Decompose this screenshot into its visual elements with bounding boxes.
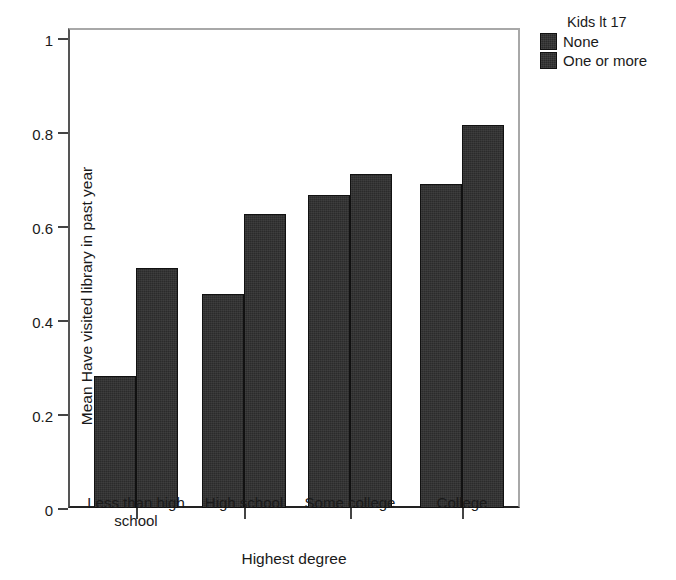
x-axis-label-high-school: High school (184, 494, 304, 512)
y-axis-tick-label-0.2: 0.2 (32, 408, 53, 425)
bar-some-college-one-or-more[interactable] (350, 174, 392, 508)
bars-layer (68, 28, 520, 508)
legend-label-none: None (563, 33, 599, 50)
bar-high-school-none[interactable] (202, 294, 244, 508)
y-axis-tick-0.2: 0.2 (58, 414, 68, 416)
y-axis-tick-0.6: 0.6 (58, 226, 68, 228)
y-axis-tick-0.4: 0.4 (58, 320, 68, 322)
legend-label-one-or-more: One or more (563, 52, 647, 69)
y-axis-tick-label-0.8: 0.8 (32, 126, 53, 143)
bar-high-school-one-or-more[interactable] (244, 214, 286, 508)
legend-swatch-none (540, 33, 557, 50)
bar-college-one-or-more[interactable] (462, 125, 504, 508)
y-axis-tick-1: 1 (58, 38, 68, 40)
y-axis-tick-label-1: 1 (45, 32, 53, 49)
y-axis-title: Mean Have visited library in past year (74, 56, 100, 536)
x-axis-label-some-college: Some college (288, 494, 412, 512)
bar-less-than-high-school-none[interactable] (94, 376, 136, 508)
y-axis-tick-label-0: 0 (45, 502, 53, 519)
x-axis-title: Highest degree (68, 550, 520, 568)
bar-some-college-none[interactable] (308, 195, 350, 508)
legend: Kids lt 17 None One or more (540, 14, 670, 71)
legend-item-none[interactable]: None (540, 33, 670, 50)
bar-college-none[interactable] (420, 184, 462, 508)
chart-plot-area: 1 0.8 0.6 0.4 0.2 0 Mean Have visited li… (68, 28, 520, 508)
x-axis-label-college: College (404, 494, 520, 512)
legend-item-one-or-more[interactable]: One or more (540, 52, 670, 69)
legend-title: Kids lt 17 (567, 14, 670, 30)
y-axis-tick-label-0.4: 0.4 (32, 314, 53, 331)
bar-less-than-high-school-one-or-more[interactable] (136, 268, 178, 508)
y-axis-tick-0.8: 0.8 (58, 132, 68, 134)
legend-swatch-one-or-more (540, 52, 557, 69)
y-axis-tick-label-0.6: 0.6 (32, 220, 53, 237)
